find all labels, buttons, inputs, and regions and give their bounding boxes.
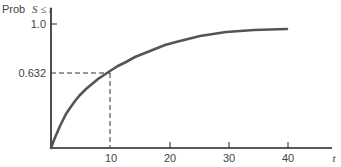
y-axis-label-expr: S ≤ t xyxy=(32,3,53,15)
chart: 1.0 Prob S ≤ t 10 20 30 40 t 0.632 xyxy=(0,0,341,167)
cdf-curve xyxy=(51,29,287,148)
x-tick-label-20: 20 xyxy=(164,152,176,164)
x-axis-label: t xyxy=(332,152,336,164)
y-tick-label-0632: 0.632 xyxy=(18,67,46,79)
y-tick-label-1: 1.0 xyxy=(31,18,46,30)
y-axis-label: Prob xyxy=(2,3,25,15)
x-tick-label-10: 10 xyxy=(105,152,117,164)
x-tick-label-40: 40 xyxy=(282,152,294,164)
x-tick-label-30: 30 xyxy=(223,152,235,164)
